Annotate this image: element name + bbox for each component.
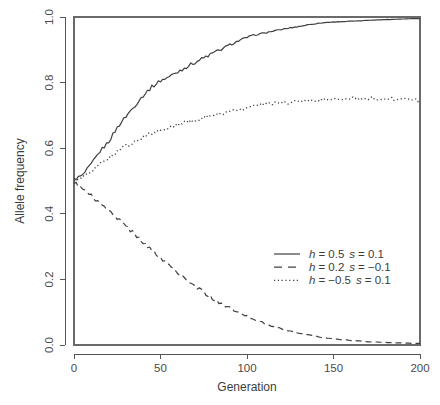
x-tick-label: 0 [71, 362, 77, 374]
x-axis-title: Generation [217, 380, 276, 394]
y-tick-label: 1.0 [43, 9, 55, 25]
y-tick-label: 0.4 [43, 205, 55, 222]
y-tick-label: 0.2 [43, 271, 55, 287]
legend-label-2: h= 0.2s= −0.1 [309, 261, 391, 273]
y-axis-title: Allele frequency [13, 138, 27, 223]
x-tick-label: 50 [154, 362, 167, 374]
y-tick-label: 0.6 [43, 140, 55, 156]
y-tick-label: 0.8 [43, 75, 55, 91]
x-tick-label: 100 [237, 362, 256, 374]
figure-container: 050100150200 0.00.20.40.60.81.0 Generati… [0, 0, 440, 405]
allele-frequency-chart: 050100150200 0.00.20.40.60.81.0 Generati… [0, 0, 440, 405]
legend-label-3: h= −0.5s= 0.1 [309, 274, 391, 286]
x-tick-label: 150 [324, 362, 343, 374]
y-tick-label: 0.0 [43, 337, 55, 353]
x-tick-label: 200 [410, 362, 429, 374]
chart-background [0, 0, 440, 405]
